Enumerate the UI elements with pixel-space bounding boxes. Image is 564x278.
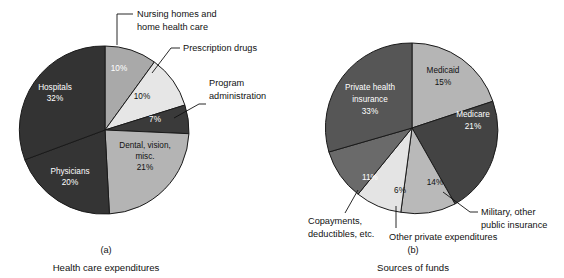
label-hospitals-percent: 32% [47, 94, 63, 103]
callout-program-line2: administration [209, 91, 266, 101]
label-private-line2: insurance [352, 95, 388, 104]
callout-copay-line2: deductibles, etc. [308, 229, 374, 239]
callout-copay-line1: Copayments, [308, 216, 362, 226]
caption-text-b: Sources of funds [377, 262, 449, 273]
label-otherprivate-percent: 6% [394, 186, 406, 195]
callout-nursing-line2: home health care [137, 22, 208, 32]
label-physicians-name: Physicians [50, 167, 89, 176]
label-medicaid-name: Medicaid [427, 66, 460, 75]
caption-letter-b: (b) [407, 245, 418, 255]
callout-military-line2: public insurance [481, 220, 547, 230]
callout-other-private: Other private expenditures [389, 232, 498, 242]
callout-prescription: Prescription drugs [183, 43, 257, 53]
label-private-percent: 33% [362, 107, 378, 116]
label-dental-percent: 21% [137, 163, 153, 172]
chart-a-health-care-expenditures: 10% 10% 7% Dental, vision, misc. 21% Phy… [19, 9, 266, 273]
label-physicians-percent: 20% [62, 178, 78, 187]
label-dental-line1: Dental, vision, [119, 141, 170, 150]
caption-letter-a: (a) [100, 245, 111, 255]
label-copayments-percent: 11% [362, 173, 378, 182]
caption-text-a: Health care expenditures [53, 262, 160, 273]
leader-line-copayments [345, 190, 358, 213]
leader-line-nursing-homes [117, 14, 133, 45]
label-prescription-percent: 10% [134, 92, 150, 101]
figure-container: 10% 10% 7% Dental, vision, misc. 21% Phy… [0, 0, 564, 278]
chart-b-sources-of-funds: Medicaid 15% Medicare 21% 14% 6% 11% Pri… [308, 43, 547, 273]
label-program-percent: 7% [149, 115, 161, 124]
dual-pie-chart-figure: 10% 10% 7% Dental, vision, misc. 21% Phy… [0, 0, 564, 278]
label-medicare-name: Medicare [456, 110, 490, 119]
callout-nursing-line1: Nursing homes and [137, 9, 217, 19]
label-medicare-percent: 21% [465, 122, 481, 131]
callout-military-line1: Military, other [481, 207, 535, 217]
callout-program-line1: Program [209, 78, 245, 88]
label-military-percent: 14% [427, 178, 443, 187]
label-nursing-percent: 10% [111, 64, 127, 73]
label-medicaid-percent: 15% [435, 78, 451, 87]
label-dental-line2: misc. [135, 152, 154, 161]
label-private-line1: Private health [345, 83, 396, 92]
label-hospitals-name: Hospitals [38, 83, 72, 92]
